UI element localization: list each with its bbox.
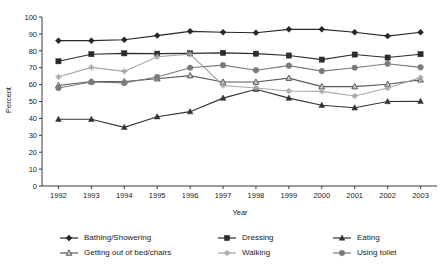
data-point-circle: [187, 65, 193, 71]
x-tick-label: 1999: [281, 191, 298, 200]
data-point-square: [220, 50, 225, 55]
x-axis-title: Year: [232, 208, 248, 217]
data-point-diamond: [253, 30, 259, 36]
legend-item-0[interactable]: Bathing/Showering: [60, 233, 151, 242]
data-point-circle: [253, 67, 259, 73]
series-line: [58, 53, 420, 61]
x-tick-label: 2000: [313, 191, 330, 200]
data-point-square: [286, 53, 291, 58]
y-tick-label: 90: [29, 30, 37, 39]
data-point-circle: [154, 74, 160, 80]
legend-item-3[interactable]: Getting out of bed/chairs: [60, 248, 171, 257]
series-line: [58, 64, 420, 88]
series-line: [58, 76, 420, 87]
data-point-star: [385, 85, 391, 91]
data-point-star: [88, 64, 94, 70]
data-point-star: [55, 74, 61, 80]
data-point-diamond: [385, 33, 391, 39]
y-axis-title: Percent: [4, 86, 13, 113]
series-line: [58, 54, 420, 96]
y-tick-label: 0: [33, 182, 37, 191]
y-tick-label: 70: [29, 63, 37, 72]
y-axis: 0102030405060708090100: [24, 13, 42, 191]
data-point-circle: [121, 80, 127, 86]
y-tick-label: 10: [29, 165, 37, 174]
data-point-square: [122, 51, 127, 56]
data-point-diamond: [286, 26, 292, 32]
x-tick-label: 1992: [50, 191, 67, 200]
legend-label: Getting out of bed/chairs: [84, 248, 171, 257]
data-point-square: [385, 55, 390, 60]
series-layer: [55, 26, 423, 129]
data-point-circle: [220, 62, 226, 68]
x-tick-label: 2003: [412, 191, 429, 200]
legend-label: Using toilet: [357, 248, 397, 257]
data-point-diamond: [121, 37, 127, 43]
legend-item-1[interactable]: Dressing: [218, 233, 274, 242]
y-tick-label: 100: [24, 13, 37, 22]
data-point-circle: [89, 79, 95, 85]
legend-label: Bathing/Showering: [84, 233, 151, 242]
x-axis: 1992199319941995199619971998199920002001…: [42, 186, 437, 200]
data-point-circle: [339, 250, 345, 256]
series-1: [56, 50, 423, 64]
x-tick-label: 2002: [379, 191, 396, 200]
y-tick-label: 50: [29, 97, 37, 106]
legend-label: Eating: [357, 233, 380, 242]
legend-label: Walking: [242, 248, 270, 257]
x-tick-label: 2001: [346, 191, 363, 200]
series-line: [58, 29, 420, 40]
data-point-diamond: [187, 28, 193, 34]
data-point-square: [352, 52, 357, 57]
data-point-triangle-open: [187, 73, 193, 78]
series-line: [58, 89, 420, 127]
legend-item-5[interactable]: Using toilet: [333, 248, 397, 257]
data-point-circle: [56, 85, 62, 91]
x-tick-label: 1994: [116, 191, 133, 200]
chart-legend: Bathing/ShoweringDressingEatingGetting o…: [60, 233, 397, 257]
data-point-diamond: [418, 29, 424, 35]
y-tick-label: 40: [29, 114, 37, 123]
x-tick-label: 1998: [248, 191, 265, 200]
legend-item-4[interactable]: Walking: [218, 248, 270, 257]
y-tick-label: 20: [29, 148, 37, 157]
data-point-star: [286, 88, 292, 94]
line-chart: 0102030405060708090100 19921993199419951…: [0, 0, 445, 267]
data-point-circle: [319, 68, 325, 74]
data-point-diamond: [352, 29, 358, 35]
series-4: [55, 51, 423, 99]
data-point-star: [121, 68, 127, 74]
series-0: [55, 26, 423, 43]
data-point-square: [224, 235, 229, 240]
x-tick-label: 1993: [83, 191, 100, 200]
legend-item-2[interactable]: Eating: [333, 233, 380, 242]
data-point-square: [418, 52, 423, 57]
data-point-star: [224, 250, 230, 256]
data-point-star: [187, 51, 193, 57]
data-point-diamond: [154, 33, 160, 39]
chart-canvas: 0102030405060708090100 19921993199419951…: [0, 0, 445, 267]
data-point-star: [352, 93, 358, 99]
x-tick-label: 1997: [215, 191, 232, 200]
data-point-diamond: [319, 26, 325, 32]
data-point-diamond: [220, 29, 226, 35]
legend-label: Dressing: [242, 233, 274, 242]
x-tick-label: 1995: [149, 191, 166, 200]
data-point-circle: [286, 63, 292, 69]
y-tick-label: 60: [29, 80, 37, 89]
data-point-circle: [385, 61, 391, 67]
y-tick-label: 30: [29, 131, 37, 140]
data-point-triangle-open: [286, 75, 292, 80]
data-point-square: [319, 57, 324, 62]
data-point-square: [253, 51, 258, 56]
data-point-square: [89, 52, 94, 57]
y-tick-label: 80: [29, 47, 37, 56]
x-tick-label: 1996: [182, 191, 199, 200]
data-point-diamond: [88, 38, 94, 44]
data-point-square: [56, 59, 61, 64]
data-point-diamond: [66, 235, 72, 241]
data-point-circle: [418, 65, 424, 71]
data-point-circle: [352, 65, 358, 71]
data-point-diamond: [55, 38, 61, 44]
